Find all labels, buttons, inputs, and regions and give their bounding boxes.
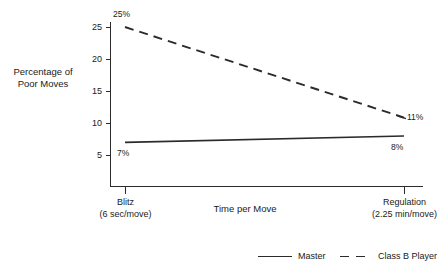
x-category-blitz: Blitz (6 sec/move) (65, 197, 186, 220)
y-axis-title-line1: Percentage of (2, 66, 84, 78)
x-category-regulation-sublabel: (2.25 min/move) (344, 209, 447, 221)
y-tick-label-10: 10 (78, 118, 102, 129)
legend-item-master-label: Master (298, 251, 326, 262)
y-axis-title: Percentage of Poor Moves (2, 66, 84, 89)
chart-canvas (0, 0, 447, 275)
y-tick-label-25: 25 (78, 22, 102, 33)
y-tick-label-15: 15 (78, 86, 102, 97)
x-category-regulation-name: Regulation (344, 197, 447, 209)
y-tick-label-20: 20 (78, 54, 102, 65)
x-category-blitz-sublabel: (6 sec/move) (65, 209, 186, 221)
legend-item-class-b-player-label: Class B Player (378, 251, 437, 262)
data-label-class-b-end: 11% (407, 112, 423, 123)
x-category-blitz-name: Blitz (65, 197, 186, 209)
x-axis-title: Time per Move (185, 203, 305, 215)
y-tick-label-5: 5 (78, 150, 102, 161)
series-line-master (125, 136, 404, 142)
x-category-regulation: Regulation (2.25 min/move) (344, 197, 447, 220)
series-line-class-b-player (125, 27, 404, 118)
y-axis-title-line2: Poor Moves (2, 78, 84, 90)
data-label-master-end: 8% (391, 142, 403, 153)
line-chart: Percentage of Poor Moves 25 20 15 10 5 2… (0, 0, 447, 275)
data-label-master-start: 7% (117, 148, 129, 159)
data-label-class-b-start: 25% (113, 9, 130, 20)
